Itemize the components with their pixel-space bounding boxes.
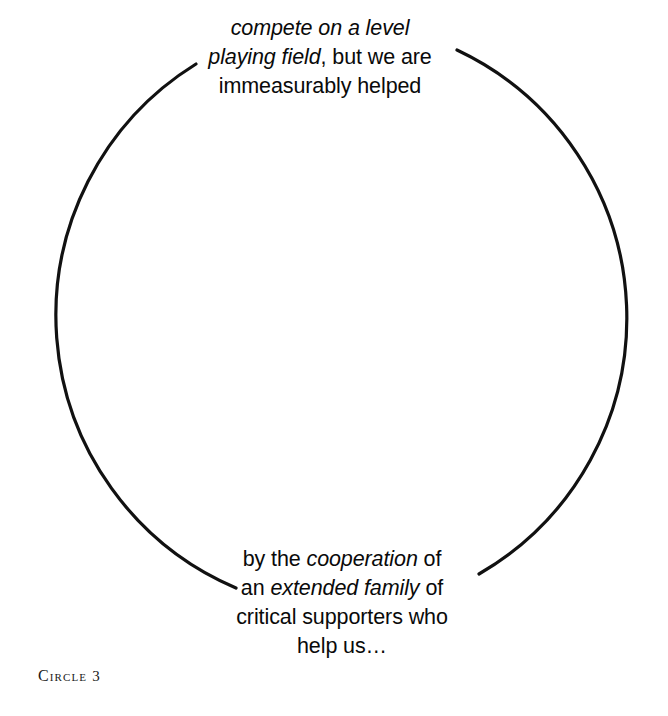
- top-line1-italic: compete on a level: [231, 16, 410, 40]
- bottom-text-line-2: an extended family of: [206, 574, 478, 603]
- figure-caption: Circle 3: [38, 667, 101, 685]
- bottom-text-line-3: critical supporters who: [206, 603, 478, 632]
- bottom-text-line-1: by the cooperation of: [206, 545, 478, 574]
- bottom-text-block: by the cooperation of an extended family…: [206, 545, 478, 661]
- bottom-line3-roman: critical supporters who: [236, 605, 448, 629]
- circle-arc-right: [457, 50, 627, 574]
- circle-diagram: compete on a level playing field, but we…: [0, 0, 668, 716]
- bottom-line1-roman-b: of: [418, 547, 442, 571]
- bottom-line1-italic: cooperation: [306, 547, 417, 571]
- bottom-line4-roman: help us…: [297, 634, 387, 658]
- figure-caption-label: Circle: [38, 667, 87, 684]
- circle-arc-left: [56, 64, 236, 588]
- bottom-line2-roman-b: of: [420, 576, 444, 600]
- top-text-line-3: immeasurably helped: [184, 72, 456, 101]
- top-text-line-2: playing field, but we are: [184, 43, 456, 72]
- top-line3-roman: immeasurably helped: [219, 74, 421, 98]
- bottom-line2-roman-a: an: [241, 576, 271, 600]
- top-text-block: compete on a level playing field, but we…: [184, 14, 456, 101]
- top-line2-roman: , but we are: [321, 45, 432, 69]
- bottom-text-line-4: help us…: [206, 632, 478, 661]
- top-text-line-1: compete on a level: [184, 14, 456, 43]
- top-line2-italic: playing field: [208, 45, 320, 69]
- bottom-line2-italic: extended family: [270, 576, 419, 600]
- figure-caption-number: 3: [92, 668, 101, 684]
- bottom-line1-roman-a: by the: [243, 547, 307, 571]
